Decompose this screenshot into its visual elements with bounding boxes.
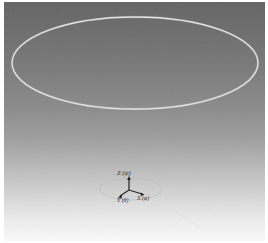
z-axis-label: Z (ψ)	[117, 169, 131, 177]
figure-border: Z (ψ) Y (θ) X (φ)	[0, 0, 268, 243]
figure-container: Z (ψ) Y (θ) X (φ)	[0, 0, 268, 243]
x-axis-label: X (φ)	[136, 195, 149, 202]
scene-canvas: Z (ψ) Y (θ) X (φ)	[4, 2, 266, 241]
background-grain-overlay	[4, 2, 266, 241]
y-axis-label: Y (θ)	[117, 197, 128, 204]
